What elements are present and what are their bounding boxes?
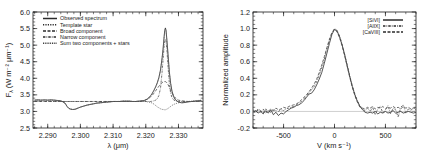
right-xtick-label: 0	[333, 131, 337, 140]
right-ytick-label: 0.2	[240, 90, 250, 99]
panel-right-velocity-profiles: -5000500-0.20.00.20.40.60.81.01.2 [SiVI]…	[213, 0, 426, 159]
left-xaxis-title: λ (μm)	[107, 141, 128, 150]
right-ytick-label: 0.0	[240, 107, 250, 116]
right-curve-alix	[253, 29, 416, 118]
right-ytick-label: 0.8	[240, 41, 250, 50]
left-panel-svg: 2.2902.3002.3102.3202.3302.53.03.54.04.5…	[0, 0, 213, 159]
left-ytick-label: 4.0	[20, 74, 30, 83]
left-xtick-label: 2.290	[39, 131, 57, 140]
left-plot-frame	[33, 12, 203, 128]
left-xtick-label: 2.310	[104, 131, 122, 140]
right-xtick-label: 500	[379, 131, 391, 140]
right-legend-label-2: [CaVIII]	[363, 29, 381, 35]
left-ytick-label: 3.0	[20, 107, 30, 116]
left-ytick-label: 5.0	[20, 41, 30, 50]
right-legend: [SiVI][AlIX][CaVIII]	[363, 17, 403, 35]
right-ytick-label: 0.6	[240, 57, 250, 66]
left-curve-narrow-component	[35, 39, 202, 101]
left-ytick-label: 5.5	[20, 24, 30, 33]
left-legend-label-4: Sum two components + stars	[60, 40, 130, 46]
right-yaxis-title: Normalized amplitude	[221, 34, 230, 105]
right-ytick-label: -0.2	[238, 124, 250, 133]
right-curve-sivi	[253, 29, 416, 115]
right-ytick-label: 1.2	[240, 8, 250, 17]
right-xaxis-title: V (km s⁻¹)	[317, 141, 351, 150]
left-legend-label-0: Observed spectrum	[60, 15, 108, 21]
left-ytick-label: 3.5	[20, 90, 30, 99]
left-curve-broad-component	[35, 82, 202, 102]
right-ytick-label: 0.4	[240, 74, 250, 83]
left-xtick-label: 2.320	[137, 131, 155, 140]
panel-left-spectrum: 2.2902.3002.3102.3202.3302.53.03.54.04.5…	[0, 0, 213, 159]
left-legend: Observed spectrumTemplate starBroad comp…	[43, 15, 130, 46]
right-curve-group	[253, 29, 416, 118]
left-yaxis-title: Fλ (W m⁻² μm⁻¹)	[4, 43, 14, 98]
right-axis-group: -5000500-0.20.00.20.40.60.81.01.2	[238, 8, 416, 140]
left-ytick-label: 2.5	[20, 124, 30, 133]
left-axis-group: 2.2902.3002.3102.3202.3302.53.03.54.04.5…	[20, 8, 203, 140]
left-legend-label-2: Broad component	[60, 28, 103, 34]
figure-two-panel-spectra: 2.2902.3002.3102.3202.3302.53.03.54.04.5…	[0, 0, 426, 159]
left-xtick-label: 2.300	[71, 131, 89, 140]
right-panel-svg: -5000500-0.20.00.20.40.60.81.01.2 [SiVI]…	[213, 0, 426, 159]
left-ytick-label: 6.0	[20, 8, 30, 17]
right-ytick-label: 1.0	[240, 24, 250, 33]
left-ytick-label: 4.5	[20, 57, 30, 66]
left-legend-label-3: Narrow component	[60, 34, 106, 40]
left-xtick-label: 2.330	[169, 131, 187, 140]
right-xtick-label: -500	[276, 131, 290, 140]
left-legend-label-1: Template star	[60, 22, 93, 28]
right-curve-caviii	[253, 29, 416, 113]
